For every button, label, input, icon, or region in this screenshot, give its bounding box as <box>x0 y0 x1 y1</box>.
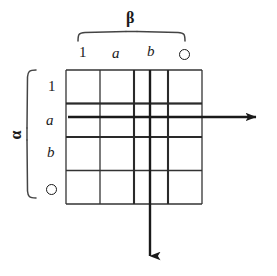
row-label-o <box>46 182 57 198</box>
row-label-1: 1 <box>48 79 56 94</box>
row-axis-symbol: α <box>8 131 24 140</box>
beta-brace-icon <box>78 32 185 41</box>
column-label-b: b <box>147 44 155 59</box>
cayley-table-figure: β 1 a b α 1 a b <box>0 0 277 276</box>
row-label-a: a <box>46 113 54 128</box>
column-label-a: a <box>112 46 120 61</box>
column-label-1: 1 <box>79 45 87 60</box>
column-axis-symbol: β <box>126 10 134 26</box>
circle-glyph-column <box>179 49 190 60</box>
figure-canvas <box>0 0 277 276</box>
row-label-b: b <box>47 145 55 160</box>
circle-glyph-row <box>46 184 57 195</box>
alpha-brace-icon <box>27 70 36 198</box>
column-label-o <box>179 47 190 63</box>
emphasis-rules <box>66 70 202 204</box>
